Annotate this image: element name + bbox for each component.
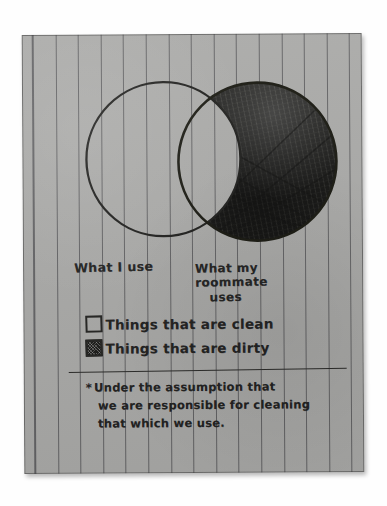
footnote-divider-line [69, 368, 347, 373]
footnote-line-2: we are responsible for cleaning [98, 395, 354, 415]
asterisk-icon: * [86, 381, 92, 395]
venn-circle-left [86, 82, 241, 237]
notebook-paper-sheet: What I use What my roommate uses Things … [22, 33, 365, 474]
venn-label-right-line1: What my roommate [195, 261, 268, 290]
legend-label-dirty: Things that are dirty [106, 339, 270, 356]
venn-shaded-region [178, 82, 338, 242]
empty-square-icon [85, 315, 103, 333]
footnote-line-1-text: Under the assumption that [94, 379, 275, 394]
footnote: *Under the assumption that we are respon… [86, 377, 354, 433]
filled-square-icon [85, 339, 103, 357]
venn-label-left: What I use [74, 260, 154, 277]
footnote-line-3: that which we use. [98, 413, 354, 433]
legend: Things that are clean Things that are di… [85, 311, 335, 361]
photo-canvas: What I use What my roommate uses Things … [0, 0, 387, 506]
footnote-line-1: *Under the assumption that [86, 377, 354, 397]
legend-item-dirty: Things that are dirty [86, 335, 336, 360]
venn-circle-right [178, 82, 337, 241]
legend-item-clean: Things that are clean [85, 311, 335, 336]
legend-label-clean: Things that are clean [105, 315, 273, 332]
venn-label-right-line2: uses [209, 289, 330, 305]
venn-label-right: What my roommate uses [195, 259, 331, 305]
